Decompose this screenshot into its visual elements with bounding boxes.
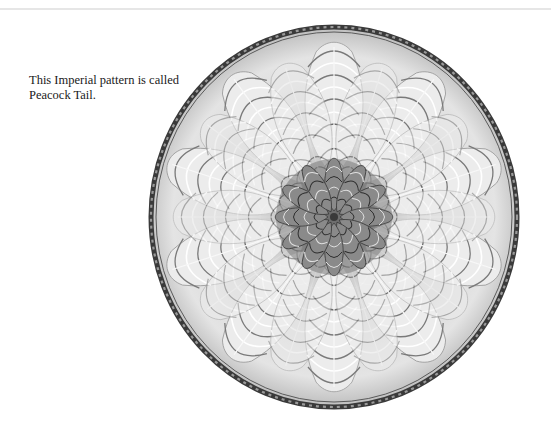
peacock-tail-plate-image: [148, 24, 520, 410]
plate-illustration: [148, 24, 520, 410]
top-rule: [0, 8, 551, 10]
